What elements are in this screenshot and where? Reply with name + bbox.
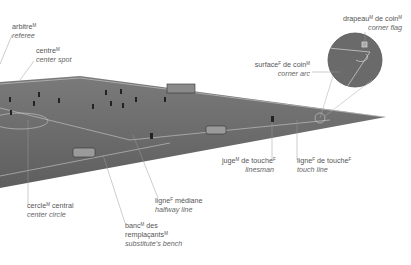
soccer-field-illustration (0, 0, 411, 265)
label-center-spot: centreM center spot (36, 46, 72, 64)
label-substitutes-bench: bancM des remplaçantsM substitute's benc… (125, 221, 182, 248)
bench-far (206, 126, 226, 134)
label-linesman: jugeM de toucheF linesman (222, 156, 274, 174)
label-referee: arbitreM referee (12, 22, 36, 40)
label-center-circle: cercleM central center circle (27, 201, 74, 219)
bench-near (73, 148, 95, 157)
label-corner-flag: drapeauM de coinM corner flag (330, 14, 402, 32)
label-corner-arc: surfaceF de coinM corner arc (240, 60, 310, 78)
label-halfway-line: ligneF médiane halfway line (155, 196, 203, 214)
corner-magnifier (320, 33, 382, 118)
goal (167, 84, 195, 93)
label-touch-line: ligneF de toucheF touch line (297, 156, 351, 174)
